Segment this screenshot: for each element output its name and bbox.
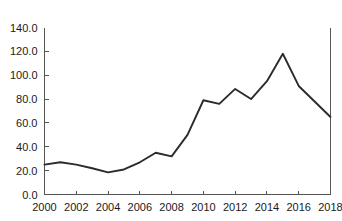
x-axis-tick-label: 2016 [286,201,310,213]
x-axis-tick-label: 2002 [64,201,88,213]
y-axis-tick-label: 40.0 [16,141,37,153]
y-axis-tick-label: 0.0 [22,189,37,201]
y-axis-tick-label: 20.0 [16,165,37,177]
y-axis-tick-label: 60.0 [16,117,37,129]
line-chart: IS$ bn 0.020.040.060.080.0100.0120.0140.… [0,0,342,221]
chart-plot-area: 0.020.040.060.080.0100.0120.0140.0 20002… [0,0,342,221]
y-axis-tick-label: 100.0 [10,69,38,81]
x-axis-tick-label: 2014 [255,201,279,213]
x-axis-tick-label: 2004 [96,201,120,213]
x-axis-tick-label: 2000 [32,201,56,213]
x-axis-tick-label: 2008 [159,201,183,213]
y-axis-tick-label: 140.0 [10,22,38,34]
chart-background [0,0,342,221]
y-axis-tick-label: 80.0 [16,93,37,105]
y-axis-tick-label: 120.0 [10,45,38,57]
x-axis-tick-label: 2018 [318,201,342,213]
x-axis-tick-label: 2012 [223,201,247,213]
x-axis-tick-label: 2006 [128,201,152,213]
x-axis-tick-label: 2010 [191,201,215,213]
